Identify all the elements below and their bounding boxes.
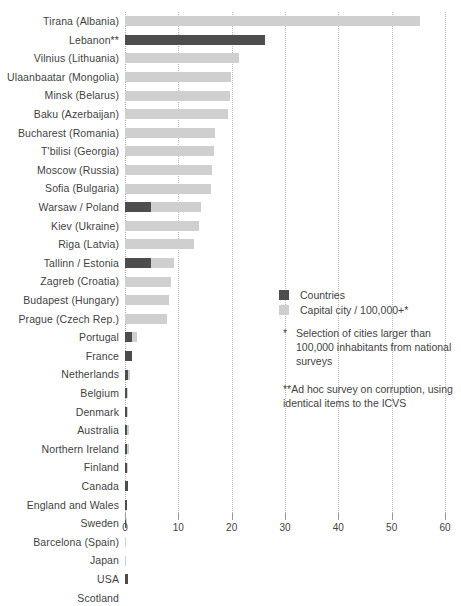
footnote-lebanon: **Ad hoc survey on corruption, using ide… xyxy=(283,382,458,410)
bar-row: Scotland xyxy=(125,589,453,606)
bar-country xyxy=(125,351,132,361)
x-tick-0 xyxy=(125,513,126,520)
bar-capital-city xyxy=(125,221,199,231)
x-tick-label-40: 40 xyxy=(333,522,344,533)
bar-row: Canada xyxy=(125,477,453,496)
bar-capital-city xyxy=(125,72,231,82)
bar-capital-city xyxy=(125,556,126,566)
bar-row: Tirana (Albania) xyxy=(125,12,453,31)
bar-country xyxy=(125,370,128,380)
x-axis: 0102030405060 xyxy=(125,513,453,543)
bar-country xyxy=(125,425,127,435)
category-label: Netherlands xyxy=(61,365,119,384)
bar-capital-city xyxy=(125,16,420,26)
bar-row: Ulaanbaatar (Mongolia) xyxy=(125,68,453,87)
category-label: Baku (Azerbaijan) xyxy=(34,105,119,124)
legend-swatch-countries-icon xyxy=(279,290,289,300)
bar-capital-city xyxy=(125,295,169,305)
category-label: Barcelona (Spain) xyxy=(33,533,119,552)
category-label: Kiev (Ukraine) xyxy=(51,217,119,236)
legend-item-countries: Countries xyxy=(279,288,449,302)
category-label: England and Wales xyxy=(27,496,119,515)
bar-row: T'bilisi (Georgia) xyxy=(125,142,453,161)
bar-rows: Tirana (Albania)Lebanon**Vilnius (Lithua… xyxy=(125,12,453,513)
legend-label-countries: Countries xyxy=(300,288,345,302)
bar-country xyxy=(125,202,151,212)
x-tick-label-0: 0 xyxy=(122,522,128,533)
bar-row: Finland xyxy=(125,458,453,477)
bar-row: Riga (Latvia) xyxy=(125,235,453,254)
footnote-cities-marker: * xyxy=(283,326,287,340)
category-label: Prague (Czech Rep.) xyxy=(18,310,119,329)
category-label: Tallinn / Estonia xyxy=(44,254,119,273)
category-label: Zagreb (Croatia) xyxy=(40,272,119,291)
category-label: Lebanon** xyxy=(69,31,119,50)
x-tick-label-60: 60 xyxy=(439,522,450,533)
category-label: Riga (Latvia) xyxy=(58,235,119,254)
x-tick-20 xyxy=(232,513,233,520)
bar-row: Vilnius (Lithuania) xyxy=(125,49,453,68)
bar-country xyxy=(125,574,128,584)
x-tick-label-50: 50 xyxy=(386,522,397,533)
x-tick-10 xyxy=(178,513,179,520)
category-label: USA xyxy=(97,570,119,589)
category-label: Australia xyxy=(77,421,119,440)
bar-capital-city xyxy=(125,165,212,175)
x-tick-label-20: 20 xyxy=(226,522,237,533)
x-tick-label-30: 30 xyxy=(279,522,290,533)
category-label: Japan xyxy=(90,551,119,570)
bar-row: Tallinn / Estonia xyxy=(125,254,453,273)
bar-capital-city xyxy=(125,277,171,287)
bar-row: Warsaw / Poland xyxy=(125,198,453,217)
bar-row: USA xyxy=(125,570,453,589)
category-label: Denmark xyxy=(76,403,119,422)
category-label: Northern Ireland xyxy=(42,440,119,459)
bar-row: England and Wales xyxy=(125,496,453,515)
x-tick-40 xyxy=(338,513,339,520)
legend-item-capital-city: Capital city / 100,000+* xyxy=(279,303,449,317)
category-label: Sweden xyxy=(80,514,119,533)
bar-country xyxy=(125,35,265,45)
category-label: Canada xyxy=(82,477,119,496)
bar-country xyxy=(125,332,132,342)
category-label: Warsaw / Poland xyxy=(39,198,119,217)
bar-row: Australia xyxy=(125,421,453,440)
bar-country xyxy=(125,463,127,473)
bar-row: Sofia (Bulgaria) xyxy=(125,179,453,198)
bar-capital-city xyxy=(125,91,230,101)
category-label: Belgium xyxy=(80,384,119,403)
plot-area: Tirana (Albania)Lebanon**Vilnius (Lithua… xyxy=(125,12,453,513)
bar-row: Lebanon** xyxy=(125,31,453,50)
bar-capital-city xyxy=(125,128,215,138)
bar-country xyxy=(125,407,127,417)
bar-country xyxy=(125,388,127,398)
category-label: T'bilisi (Georgia) xyxy=(41,142,119,161)
bar-country xyxy=(125,444,127,454)
footnote-cities: * Selection of cities larger than 100,00… xyxy=(283,326,458,369)
x-tick-60 xyxy=(445,513,446,520)
x-tick-label-10: 10 xyxy=(173,522,184,533)
category-label: Minsk (Belarus) xyxy=(45,86,119,105)
category-label: France xyxy=(86,347,119,366)
bar-row: Kiev (Ukraine) xyxy=(125,217,453,236)
bar-capital-city xyxy=(125,109,228,119)
legend-label-capital-city: Capital city / 100,000+* xyxy=(300,303,408,317)
bar-row: Moscow (Russia) xyxy=(125,161,453,180)
category-label: Bucharest (Romania) xyxy=(18,124,119,143)
bar-row: Japan xyxy=(125,551,453,570)
bar-row: Minsk (Belarus) xyxy=(125,86,453,105)
bar-capital-city xyxy=(125,239,194,249)
category-label: Ulaanbaatar (Mongolia) xyxy=(7,68,119,87)
bar-capital-city xyxy=(125,146,214,156)
category-label: Finland xyxy=(84,458,119,477)
category-label: Budapest (Hungary) xyxy=(23,291,119,310)
category-label: Tirana (Albania) xyxy=(43,12,119,31)
bar-row: Baku (Azerbaijan) xyxy=(125,105,453,124)
bar-capital-city xyxy=(125,53,239,63)
category-label: Portugal xyxy=(79,328,119,347)
chart-legend: Countries Capital city / 100,000+* xyxy=(279,288,449,318)
bar-country xyxy=(125,258,151,268)
category-label: Vilnius (Lithuania) xyxy=(34,49,119,68)
category-label: Sofia (Bulgaria) xyxy=(45,179,119,198)
